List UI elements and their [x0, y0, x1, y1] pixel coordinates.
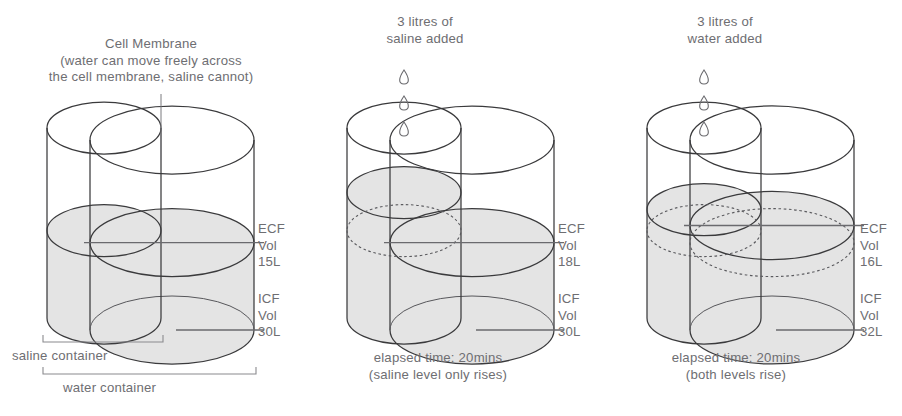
- icf-label-saline: ICF Vol 30L: [558, 291, 600, 341]
- droplet-icon: [400, 96, 409, 110]
- droplet-icon: [700, 70, 709, 84]
- cylinder-group: [647, 70, 864, 364]
- cylinder-group: [347, 70, 564, 364]
- bracket-label-saline-container: saline container: [12, 348, 108, 363]
- ecf-label-saline: ECF Vol 18L: [558, 221, 600, 271]
- icf-label-water: ICF Vol 32L: [860, 291, 902, 341]
- figure-root: Cell Membrane (water can move freely acr…: [0, 0, 902, 416]
- bracket-water-container: [43, 367, 256, 374]
- saline-top-rim: [47, 102, 161, 154]
- cylinder-group: [43, 94, 264, 374]
- water-top-rim: [390, 106, 554, 174]
- droplet-icon: [700, 96, 709, 110]
- panel-saline-added: 3 litres of saline added ECF Vol 18L ICF…: [300, 0, 600, 416]
- bracket-label-water-container: water container: [63, 380, 156, 395]
- droplet-icon: [400, 70, 409, 84]
- ecf-label-baseline: ECF Vol 15L: [258, 221, 300, 271]
- droplet-icon: [400, 122, 409, 136]
- panel-baseline: Cell Membrane (water can move freely acr…: [0, 0, 300, 416]
- water-top-rim: [90, 106, 254, 174]
- water-top-rim: [690, 106, 854, 174]
- panel-water-added: 3 litres of water added ECF Vol 16L ICF …: [598, 0, 902, 416]
- droplet-icon: [700, 122, 709, 136]
- panel-caption-saline: elapsed time: 20mins (saline level only …: [318, 350, 558, 383]
- panel-caption-water: elapsed time: 20mins (both levels rise): [616, 350, 856, 383]
- icf-label-baseline: ICF Vol 30L: [258, 291, 300, 341]
- ecf-label-water: ECF Vol 16L: [860, 221, 902, 271]
